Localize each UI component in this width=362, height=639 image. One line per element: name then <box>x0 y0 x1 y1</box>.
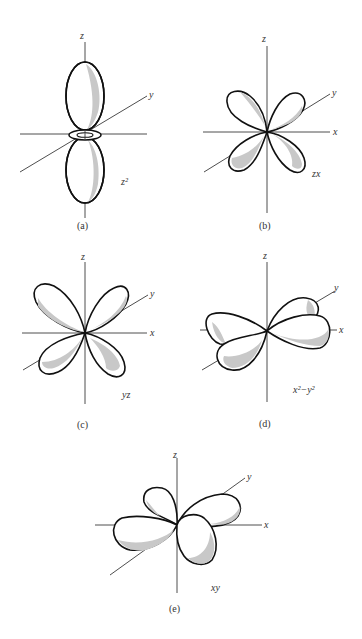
caption-c: (c) <box>77 419 88 431</box>
z-axis-label: z <box>262 250 267 261</box>
panel-e: z y x xy (e) <box>95 449 269 615</box>
caption-b: (b) <box>259 220 271 232</box>
y-axis-label: y <box>148 89 154 100</box>
orbital-label: z² <box>120 176 129 187</box>
lobe-upper-right <box>267 93 305 132</box>
lobe-upper-left <box>34 284 85 333</box>
lobe-upper-right <box>85 286 128 333</box>
y-axis-label: y <box>333 282 339 293</box>
z-axis-label: z <box>80 251 85 262</box>
lobe-upper-left <box>227 91 267 132</box>
panel-b: z y x zx (b) <box>203 33 338 232</box>
panel-d: z y x x²−y² (d) <box>200 250 344 430</box>
x-axis-label: x <box>332 126 338 137</box>
caption-a: (a) <box>77 220 88 232</box>
lobe-lower-right <box>267 132 305 172</box>
lobe-lower-right <box>85 333 125 377</box>
caption-e: (e) <box>169 603 180 615</box>
orbital-figure: z y z² (a) z y x zx (b) <box>0 0 362 639</box>
x-axis-label: x <box>149 327 155 338</box>
orbital-label: x²−y² <box>292 384 316 395</box>
y-axis-label: y <box>246 471 252 482</box>
z-axis-label: z <box>79 30 84 41</box>
lobe-upper <box>66 62 104 130</box>
x-axis-label: x <box>338 324 344 335</box>
lobe-lower-left <box>39 333 85 374</box>
lobe-front-left <box>114 516 177 550</box>
x-axis-label: x <box>263 519 269 530</box>
orbital-label: xy <box>210 582 220 593</box>
panel-c: z y x yz (c) <box>22 251 155 431</box>
y-axis-label: y <box>331 87 337 98</box>
orbital-label: yz <box>121 389 130 400</box>
orbital-label: zx <box>311 168 321 179</box>
lobe-lower-left <box>229 132 267 171</box>
y-axis-label: y <box>149 288 155 299</box>
z-axis-label: z <box>261 33 266 44</box>
panel-a: z y z² (a) <box>20 30 154 232</box>
lobe-lower <box>66 137 104 203</box>
z-axis-label: z <box>172 449 177 460</box>
caption-d: (d) <box>259 418 271 430</box>
